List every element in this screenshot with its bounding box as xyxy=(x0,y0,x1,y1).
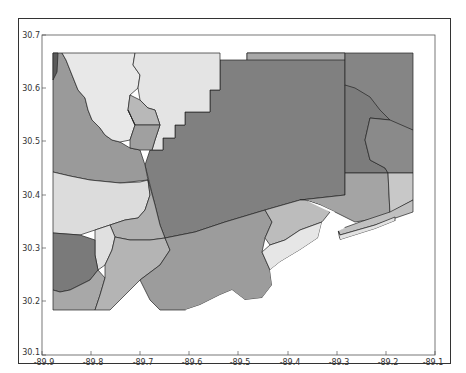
y-tick-label: 30.7 xyxy=(22,31,40,40)
y-tick-label: 30.5 xyxy=(22,137,40,146)
y-tick-label: 30.3 xyxy=(22,244,40,253)
x-tick-label: -89.4 xyxy=(280,358,301,367)
x-tick-label: -89.8 xyxy=(83,358,104,367)
x-tick-label: -89.1 xyxy=(423,358,444,367)
y-tick-label: 30.6 xyxy=(22,84,40,93)
x-tick-label: -89.2 xyxy=(378,358,399,367)
x-tick-label: -89.3 xyxy=(329,358,350,367)
x-tick-label: -89.9 xyxy=(34,358,55,367)
y-tick-label: 30.1 xyxy=(22,348,40,357)
x-tick-label: -89.7 xyxy=(133,358,154,367)
x-tick-label: -89.5 xyxy=(230,358,251,367)
map-plot: 30.7 30.6 30.5 30.4 30.3 30.2 30.1 -89.9… xyxy=(0,0,466,373)
y-tick-label: 30.4 xyxy=(22,191,40,200)
x-tick-label: -89.6 xyxy=(182,358,203,367)
y-tick-label: 30.2 xyxy=(22,297,40,306)
region-top-strip[interactable] xyxy=(247,53,345,60)
